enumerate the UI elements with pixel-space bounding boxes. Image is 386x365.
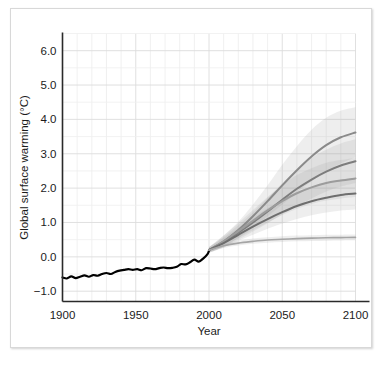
x-tick-label: 2050 bbox=[269, 309, 295, 321]
x-tick-label: 2100 bbox=[343, 309, 369, 321]
x-tick-label: 1900 bbox=[50, 309, 76, 321]
x-tick-label: 1950 bbox=[123, 309, 149, 321]
y-tick-label: 6.0 bbox=[41, 45, 57, 57]
y-tick-label: 2.0 bbox=[41, 182, 57, 194]
y-tick-label: −1.0 bbox=[34, 285, 57, 297]
x-axis-title: Year bbox=[197, 325, 220, 337]
global-warming-projection-chart: −1.00.01.02.03.04.05.06.0190019502000205… bbox=[0, 0, 386, 365]
y-tick-label: 0.0 bbox=[41, 251, 57, 263]
y-tick-label: 1.0 bbox=[41, 216, 57, 228]
y-axis-title: Global surface warming (°C) bbox=[18, 95, 30, 240]
chart-svg: −1.00.01.02.03.04.05.06.0190019502000205… bbox=[0, 0, 386, 365]
y-tick-label: 3.0 bbox=[41, 148, 57, 160]
y-tick-label: 5.0 bbox=[41, 79, 57, 91]
x-tick-label: 2000 bbox=[196, 309, 222, 321]
y-tick-label: 4.0 bbox=[41, 113, 57, 125]
